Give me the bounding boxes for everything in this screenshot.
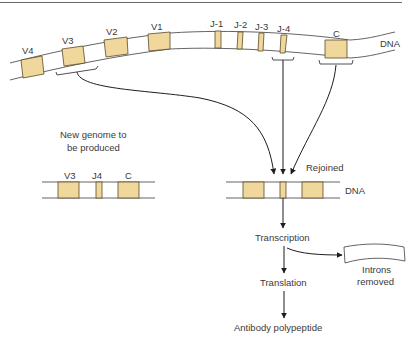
- rejoined-segment-j4: [280, 182, 286, 198]
- new-genome-segment-v3: [58, 182, 79, 198]
- segment-v3: [62, 46, 85, 66]
- segment-j4: [280, 35, 287, 53]
- label-antibody-polypeptide: Antibody polypeptide: [234, 322, 322, 333]
- new-genome-segment-c: [118, 182, 139, 198]
- brace-j4: [272, 57, 294, 60]
- rejoined-dna: Rejoined DNA: [226, 162, 366, 198]
- label-v1: V1: [151, 21, 163, 32]
- label-introns: Introns: [362, 264, 391, 275]
- rejoined-segment-v3: [243, 182, 264, 198]
- antibody-gene-rearrangement-diagram: V4 V3 V2 V1 J-1 J-2 J-3 J-4 C DNA New ge…: [0, 0, 417, 347]
- label-transcription: Transcription: [255, 232, 310, 243]
- segment-v1: [148, 32, 170, 51]
- rejoined-segment-c: [302, 182, 323, 198]
- label-j3: J-3: [255, 21, 268, 32]
- brace-c: [319, 60, 353, 64]
- label-j2: J-2: [234, 19, 247, 30]
- segment-j2: [237, 32, 243, 49]
- label-removed: removed: [357, 276, 394, 287]
- label-c: C: [333, 28, 340, 39]
- segment-c: [325, 40, 347, 58]
- label-j4: J-4: [277, 23, 290, 34]
- label-rejoined: Rejoined: [306, 162, 344, 173]
- segment-v4: [21, 56, 44, 78]
- new-genome: New genome to be produced V3 J4 C: [42, 129, 155, 198]
- label-translation: Translation: [260, 277, 307, 288]
- new-genome-label-c: C: [125, 170, 132, 181]
- introns-removed-ribbon-icon: [344, 244, 405, 263]
- new-genome-caption-2: be produced: [67, 142, 120, 153]
- segment-j1: [215, 31, 221, 48]
- label-dna-top: DNA: [380, 38, 401, 49]
- label-v3: V3: [62, 35, 74, 46]
- germline-dna-strand: V4 V3 V2 V1 J-1 J-2 J-3 J-4 C DNA: [10, 18, 401, 80]
- label-v4: V4: [22, 45, 34, 56]
- new-genome-segment-j4: [96, 182, 102, 198]
- arrow-c-to-rejoined: [291, 65, 336, 174]
- label-j1: J-1: [210, 18, 223, 29]
- new-genome-label-j4: J4: [92, 170, 102, 181]
- new-genome-caption-1: New genome to: [60, 129, 127, 140]
- segment-v2: [104, 37, 128, 57]
- label-dna-rejoined: DNA: [345, 185, 366, 196]
- segment-j3: [258, 33, 264, 51]
- arrow-to-introns-removed: [287, 248, 342, 255]
- arrow-v3-to-rejoined: [77, 72, 274, 174]
- new-genome-label-v3: V3: [64, 170, 76, 181]
- label-v2: V2: [106, 26, 118, 37]
